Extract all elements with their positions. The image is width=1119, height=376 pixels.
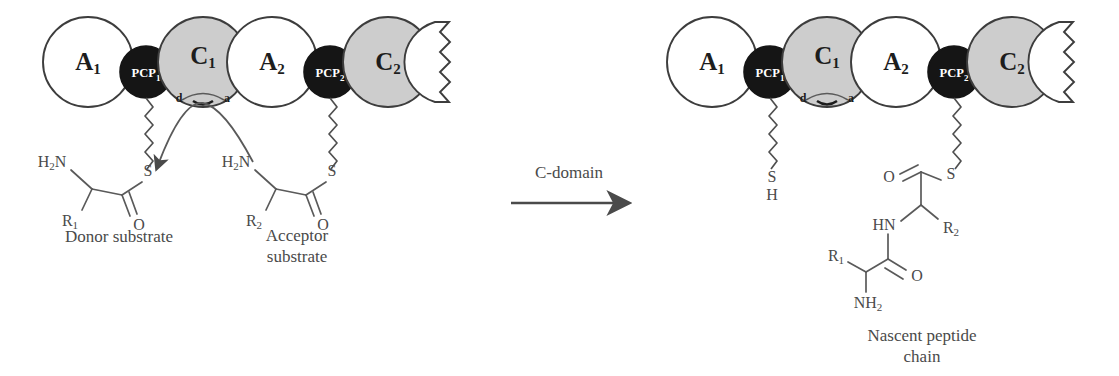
donor-bond-c-o-a (122, 195, 130, 216)
acceptor-bond-c-o-b (313, 192, 321, 214)
acceptor-bond-s-c (306, 182, 326, 195)
acceptor-substrate-caption-line2: substrate (267, 247, 327, 266)
nascent-sulfur-label: S (947, 165, 956, 182)
nascent-peptide-caption-line2: chain (904, 347, 941, 366)
nascent-bond-ca1-r1 (848, 262, 866, 272)
donor-substrate-caption: Donor substrate (65, 227, 173, 246)
nascent-amide-nitrogen-label: HN (872, 216, 896, 233)
right-site-label-acceptor: a (848, 91, 854, 105)
free-thiol-group: S H (766, 98, 778, 203)
nascent-bond-ca2-n (901, 205, 921, 221)
acceptor-bond-ca-n (255, 170, 276, 189)
nascent-bond-c2-o-b (885, 268, 903, 279)
acceptor-bond-c-o-a (306, 195, 314, 216)
donor-bond-c-o-b (129, 192, 137, 214)
nascent-bond-c1-o-a (903, 172, 921, 181)
nascent-amide-oxygen-label: O (911, 267, 923, 284)
donor-bond-c-ca (92, 189, 122, 195)
nrps-condensation-diagram: A1 PCP1 C1 d a A2 PCP2 C2 S H2N (0, 0, 1119, 376)
donor-sulfur-label: S (144, 162, 153, 179)
nascent-thioester-oxygen-label: O (883, 168, 895, 185)
nascent-bond-c2-o-a (888, 259, 906, 270)
donor-ppant-arm (145, 98, 153, 169)
acceptor-bond-c-ca (276, 189, 306, 195)
nascent-terminal-amine-label: NH2 (854, 294, 883, 313)
nascent-peptide-ppant-arm (953, 98, 961, 169)
figure-canvas: A1 PCP1 C1 d a A2 PCP2 C2 S H2N (0, 0, 1119, 376)
free-thiol-hydrogen-label: H (766, 186, 778, 203)
nascent-bond-c1-o-b (900, 165, 918, 174)
right-module-chain: A1 PCP1 C1 d a A2 PCP2 C2 (667, 17, 1074, 107)
reaction-arrow-label: C-domain (535, 163, 603, 182)
acceptor-ppant-arm (329, 98, 337, 169)
donor-substrate-group: S H2N R1 O Donor substrate (38, 98, 173, 246)
right-site-label-donor: d (800, 91, 807, 105)
nascent-bond-c2-ca1 (866, 259, 888, 272)
acceptor-substrate-group: S H2N R2 O Acceptor substrate (222, 98, 337, 266)
acceptor-side-chain-label: R2 (246, 212, 262, 231)
donor-bond-s-c (122, 182, 142, 195)
acceptor-bond-ca-r (266, 189, 276, 210)
left-site-label-acceptor: a (224, 91, 230, 105)
nascent-bond-ca2-r2 (921, 205, 938, 219)
nascent-bond-s-c1 (921, 172, 941, 180)
nascent-peptide-caption-line1: Nascent peptide (867, 326, 976, 345)
left-site-label-donor: d (176, 91, 183, 105)
acceptor-amine-label: H2N (222, 153, 251, 172)
nascent-peptide-group: S O R2 HN O R1 NH2 Nascent peptide chain (828, 98, 977, 366)
free-thiol-sulfur-label: S (768, 168, 777, 185)
donor-amine-label: H2N (38, 153, 67, 172)
acceptor-substrate-caption-line1: Acceptor (266, 226, 329, 245)
left-module-chain: A1 PCP1 C1 d a A2 PCP2 C2 (43, 17, 450, 107)
nascent-residue2-label: R2 (943, 219, 959, 238)
reaction-arrow-group: C-domain (511, 163, 622, 203)
donor-bond-ca-r (82, 189, 92, 210)
donor-bond-ca-n (71, 170, 92, 189)
free-thiol-ppant-arm (769, 98, 777, 169)
nascent-residue1-label: R1 (828, 247, 844, 266)
acceptor-sulfur-label: S (328, 162, 337, 179)
